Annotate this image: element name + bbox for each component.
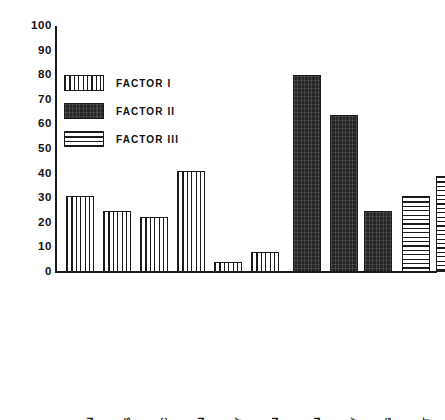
legend-item: FACTOR I — [64, 71, 214, 95]
y-tick-label: 70 — [6, 94, 52, 106]
x-category-label: BLOCK DESIGN — [312, 416, 322, 420]
x-category-label: DIGIT SYMBOL/CODING — [383, 416, 393, 420]
bar — [402, 196, 430, 272]
legend-label: FACTOR III — [116, 134, 179, 145]
legend-item: FACTOR II — [64, 99, 214, 123]
y-tick-label: 60 — [6, 119, 52, 131]
bar — [330, 115, 358, 272]
legend-item: FACTOR III — [64, 127, 214, 151]
y-tick-label: 90 — [6, 45, 52, 57]
y-tick-label: 30 — [6, 192, 52, 204]
y-tick-label: 100 — [6, 20, 52, 32]
y-tick-label: 40 — [6, 168, 52, 180]
bar — [177, 171, 205, 272]
y-tick-label: 0 — [6, 266, 52, 278]
bar — [293, 75, 321, 272]
legend-swatch — [64, 103, 104, 119]
y-tick-label: 10 — [6, 242, 52, 254]
legend-swatch — [64, 131, 104, 147]
bar — [251, 252, 279, 272]
y-tick-label: 80 — [6, 69, 52, 81]
bar-chart: 0102030405060708090100 FACTOR IFACTOR II… — [0, 0, 445, 420]
bar — [140, 217, 168, 272]
x-category-label: ARITHMETIC — [159, 416, 169, 420]
legend: FACTOR IFACTOR IIFACTOR III — [64, 71, 214, 155]
legend-label: FACTOR II — [116, 106, 175, 117]
x-category-label: SIMILARITIES — [122, 416, 132, 420]
bar — [103, 211, 131, 273]
y-tick-label: 50 — [6, 143, 52, 155]
legend-swatch — [64, 75, 104, 91]
x-category-label: VOCABULARY — [233, 416, 243, 420]
y-axis-tick-labels: 0102030405060708090100 — [0, 0, 52, 420]
bar — [66, 196, 94, 272]
bar — [364, 211, 392, 273]
x-category-label: OBJECT ASSEMBLY — [349, 416, 359, 420]
bar — [436, 176, 445, 272]
x-category-label: DIGIT SPAN — [196, 416, 206, 420]
bar — [214, 262, 242, 272]
legend-label: FACTOR I — [116, 78, 171, 89]
x-axis-category-labels: INFORMATIONSIMILARITIESARITHMETICDIGIT S… — [57, 278, 437, 420]
x-category-label: PICTURE ARRANGEMENT — [421, 416, 431, 420]
x-category-label: COMPREHENSION — [270, 416, 280, 420]
x-category-label: INFORMATION — [85, 416, 95, 420]
y-tick-label: 20 — [6, 217, 52, 229]
